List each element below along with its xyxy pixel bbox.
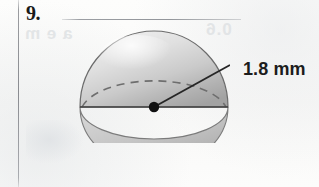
paper-smudge — [26, 120, 84, 164]
hemisphere-lower-face — [80, 107, 228, 143]
problem-number-label: 9. — [26, 2, 40, 25]
hemisphere-figure — [78, 29, 230, 143]
center-point-dot — [149, 102, 159, 112]
dome-highlight — [98, 35, 178, 83]
bleed-through-text-left: a e m — [24, 24, 72, 44]
hemisphere-svg — [78, 29, 230, 143]
worksheet-page: a e m 0.6 9. — [0, 0, 319, 187]
answer-blank-line[interactable] — [62, 19, 241, 20]
radius-dimension-label: 1.8 mm — [243, 59, 306, 80]
margin-rule-line — [18, 0, 19, 187]
